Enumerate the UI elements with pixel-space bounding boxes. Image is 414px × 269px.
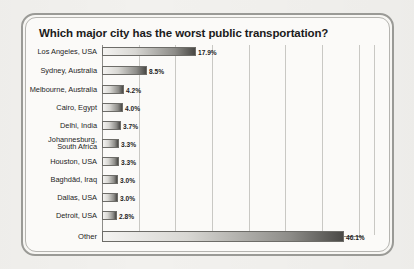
bar-row: Cairo, Egypt4.0%: [102, 103, 364, 112]
bar-row-label: Los Angeles, USA: [37, 48, 97, 56]
bar-value-label: 17.9%: [198, 48, 217, 55]
bar-value-label: 8.5%: [149, 67, 164, 74]
bar: 3.0%: [102, 193, 118, 202]
bar-value-label: 3.3%: [121, 140, 136, 147]
bar: 17.9%: [102, 47, 196, 56]
bar: 3.0%: [102, 175, 118, 184]
bar-row: Dallas, USA3.0%: [102, 193, 364, 202]
bar-row-label: Melbourne, Australia: [30, 86, 97, 94]
screenshot-root: Which major city has the worst public tr…: [0, 0, 414, 269]
bar-value-label: 3.0%: [120, 176, 135, 183]
bar-value-label: 3.7%: [123, 122, 138, 129]
chart-title: Which major city has the worst public tr…: [39, 27, 328, 39]
bar-value-label: 3.3%: [121, 158, 136, 165]
bar-row: Detroit, USA2.8%: [102, 211, 364, 220]
bar: 46.1%: [102, 231, 344, 242]
bar-row-label: Sydney, Australia: [40, 67, 97, 75]
bar: 8.5%: [102, 66, 147, 75]
bar-value-label: 3.0%: [120, 194, 135, 201]
bar-row: Melbourne, Australia4.2%: [102, 85, 364, 94]
bar-rows: Los Angeles, USA17.9%Sydney, Australia8.…: [102, 45, 364, 241]
bar-value-label: 4.2%: [126, 86, 141, 93]
bar-value-label: 2.8%: [119, 212, 134, 219]
bar-value-label: 46.1%: [346, 233, 365, 240]
bar-row: Other46.1%: [102, 231, 364, 242]
chart-panel: Which major city has the worst public tr…: [25, 17, 390, 252]
bar-row: Sydney, Australia8.5%: [102, 66, 364, 75]
bar-row-label: Other: [78, 233, 97, 241]
bar-row: Delhi, India3.7%: [102, 121, 364, 130]
bar-row: Johannesburg,South Africa3.3%: [102, 139, 364, 148]
bar-row-label: Dallas, USA: [57, 194, 97, 202]
bar-value-label: 4.0%: [125, 104, 140, 111]
bar-row-label: Detroit, USA: [56, 212, 97, 220]
bar-row-label: Johannesburg,South Africa: [35, 136, 97, 151]
bar-row: Houston, USA3.3%: [102, 157, 364, 166]
bar-row-label: Baghdād, Iraq: [51, 176, 97, 184]
bar: 4.0%: [102, 103, 123, 112]
bar-row: Los Angeles, USA17.9%: [102, 47, 364, 56]
bar-row-label: Delhi, India: [60, 122, 97, 130]
bar: 2.8%: [102, 211, 117, 220]
gridline: [374, 45, 375, 235]
bar-row-label: Houston, USA: [50, 158, 97, 166]
bar: 3.3%: [102, 139, 119, 148]
bar: 3.3%: [102, 157, 119, 166]
bar: 4.2%: [102, 85, 124, 94]
bar-row: Baghdād, Iraq3.0%: [102, 175, 364, 184]
bar-row-label: Cairo, Egypt: [56, 104, 97, 112]
plot-area: Los Angeles, USA17.9%Sydney, Australia8.…: [102, 45, 364, 241]
bar: 3.7%: [102, 121, 121, 130]
